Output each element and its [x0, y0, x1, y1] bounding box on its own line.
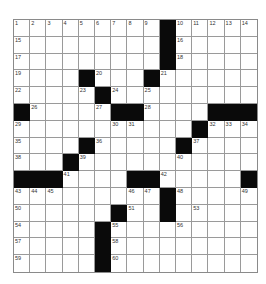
grid-cell[interactable]: [241, 138, 257, 155]
grid-cell[interactable]: [30, 70, 46, 87]
grid-cell[interactable]: [208, 171, 224, 188]
grid-cell[interactable]: [79, 121, 95, 138]
grid-cell[interactable]: [46, 222, 62, 239]
grid-cell[interactable]: [208, 188, 224, 205]
grid-cell[interactable]: [46, 154, 62, 171]
grid-cell[interactable]: [225, 70, 241, 87]
grid-cell[interactable]: 22: [14, 87, 30, 104]
grid-cell[interactable]: [30, 37, 46, 54]
grid-cell[interactable]: 50: [14, 205, 30, 222]
grid-cell[interactable]: [95, 37, 111, 54]
grid-cell[interactable]: [111, 154, 127, 171]
grid-cell[interactable]: [79, 238, 95, 255]
grid-cell[interactable]: 11: [192, 20, 208, 37]
grid-cell[interactable]: [208, 54, 224, 71]
grid-cell[interactable]: 5: [79, 20, 95, 37]
grid-cell[interactable]: [192, 188, 208, 205]
grid-cell[interactable]: [144, 37, 160, 54]
grid-cell[interactable]: 2: [30, 20, 46, 37]
grid-cell[interactable]: [192, 54, 208, 71]
grid-cell[interactable]: [46, 138, 62, 155]
grid-cell[interactable]: [176, 87, 192, 104]
grid-cell[interactable]: [79, 37, 95, 54]
grid-cell[interactable]: 56: [176, 222, 192, 239]
grid-cell[interactable]: [208, 87, 224, 104]
grid-cell[interactable]: [30, 154, 46, 171]
grid-cell[interactable]: [30, 138, 46, 155]
grid-cell[interactable]: [95, 54, 111, 71]
grid-cell[interactable]: [63, 222, 79, 239]
grid-cell[interactable]: 16: [176, 37, 192, 54]
grid-cell[interactable]: [30, 205, 46, 222]
grid-cell[interactable]: 27: [95, 104, 111, 121]
grid-cell[interactable]: [192, 37, 208, 54]
grid-cell[interactable]: 1: [14, 20, 30, 37]
grid-cell[interactable]: [160, 222, 176, 239]
grid-cell[interactable]: [127, 154, 143, 171]
grid-cell[interactable]: [63, 87, 79, 104]
grid-cell[interactable]: [30, 121, 46, 138]
grid-cell[interactable]: [30, 238, 46, 255]
grid-cell[interactable]: [160, 121, 176, 138]
grid-cell[interactable]: [176, 171, 192, 188]
grid-cell[interactable]: 37: [192, 138, 208, 155]
grid-cell[interactable]: [63, 104, 79, 121]
grid-cell[interactable]: [176, 205, 192, 222]
grid-cell[interactable]: 8: [127, 20, 143, 37]
grid-cell[interactable]: [160, 104, 176, 121]
grid-cell[interactable]: 12: [208, 20, 224, 37]
grid-cell[interactable]: [241, 238, 257, 255]
grid-cell[interactable]: 23: [79, 87, 95, 104]
grid-cell[interactable]: [30, 54, 46, 71]
grid-cell[interactable]: [63, 121, 79, 138]
grid-cell[interactable]: [160, 154, 176, 171]
grid-cell[interactable]: 25: [144, 87, 160, 104]
grid-cell[interactable]: 55: [111, 222, 127, 239]
grid-cell[interactable]: 54: [14, 222, 30, 239]
grid-cell[interactable]: 38: [14, 154, 30, 171]
grid-cell[interactable]: 32: [208, 121, 224, 138]
grid-cell[interactable]: 4: [63, 20, 79, 37]
grid-cell[interactable]: [225, 54, 241, 71]
grid-cell[interactable]: [241, 37, 257, 54]
grid-cell[interactable]: [63, 255, 79, 272]
grid-cell[interactable]: [127, 222, 143, 239]
grid-cell[interactable]: [111, 37, 127, 54]
grid-cell[interactable]: 51: [127, 205, 143, 222]
grid-cell[interactable]: [95, 154, 111, 171]
grid-cell[interactable]: 18: [176, 54, 192, 71]
grid-cell[interactable]: [241, 205, 257, 222]
grid-cell[interactable]: 14: [241, 20, 257, 37]
grid-cell[interactable]: [111, 54, 127, 71]
grid-cell[interactable]: [127, 238, 143, 255]
grid-cell[interactable]: 59: [14, 255, 30, 272]
grid-cell[interactable]: 30: [111, 121, 127, 138]
grid-cell[interactable]: [208, 154, 224, 171]
grid-cell[interactable]: 58: [111, 238, 127, 255]
grid-cell[interactable]: [208, 255, 224, 272]
grid-cell[interactable]: [241, 255, 257, 272]
grid-cell[interactable]: [144, 154, 160, 171]
grid-cell[interactable]: [30, 87, 46, 104]
grid-cell[interactable]: [208, 37, 224, 54]
grid-cell[interactable]: [95, 171, 111, 188]
grid-cell[interactable]: [192, 154, 208, 171]
grid-cell[interactable]: [95, 121, 111, 138]
grid-cell[interactable]: [225, 87, 241, 104]
grid-cell[interactable]: [176, 238, 192, 255]
grid-cell[interactable]: [225, 238, 241, 255]
grid-cell[interactable]: 31: [127, 121, 143, 138]
grid-cell[interactable]: [79, 54, 95, 71]
grid-cell[interactable]: 41: [63, 171, 79, 188]
grid-cell[interactable]: [225, 138, 241, 155]
grid-cell[interactable]: 3: [46, 20, 62, 37]
grid-cell[interactable]: [111, 171, 127, 188]
grid-cell[interactable]: [111, 70, 127, 87]
grid-cell[interactable]: [144, 121, 160, 138]
grid-cell[interactable]: [192, 222, 208, 239]
grid-cell[interactable]: [208, 222, 224, 239]
grid-cell[interactable]: [192, 171, 208, 188]
grid-cell[interactable]: [192, 104, 208, 121]
grid-cell[interactable]: [63, 37, 79, 54]
grid-cell[interactable]: 21: [160, 70, 176, 87]
